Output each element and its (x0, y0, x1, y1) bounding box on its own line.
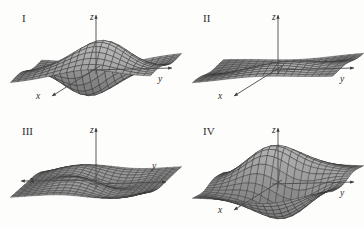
panel-III-z-axis-label: z (89, 125, 94, 135)
panel-II-z-axis-label: z (271, 12, 276, 22)
panel-I-x-axis-label: x (35, 91, 41, 101)
panel-IV-numeral: IV (203, 125, 215, 137)
panel-II-numeral: II (203, 12, 211, 24)
panel-I-y-axis-label: y (157, 74, 163, 84)
panel-II-y-axis-label: y (339, 74, 345, 84)
panel-II-x-axis-label: x (217, 91, 223, 101)
panel-IV-x-axis-label: x (217, 205, 223, 215)
panel-IV-z-axis-label: z (271, 125, 276, 135)
panel-III-x-axis-label: x (29, 175, 35, 185)
panel-III-y-axis-label: y (151, 161, 157, 171)
panel-I-numeral: I (22, 12, 26, 24)
four-surface-plots-figure: Izyx IIzyx IIIzyx IVzyx (0, 0, 364, 227)
panel-IV-y-axis-label: y (339, 188, 345, 198)
panel-III-numeral: III (22, 125, 33, 137)
panel-I-z-axis-label: z (89, 12, 94, 22)
